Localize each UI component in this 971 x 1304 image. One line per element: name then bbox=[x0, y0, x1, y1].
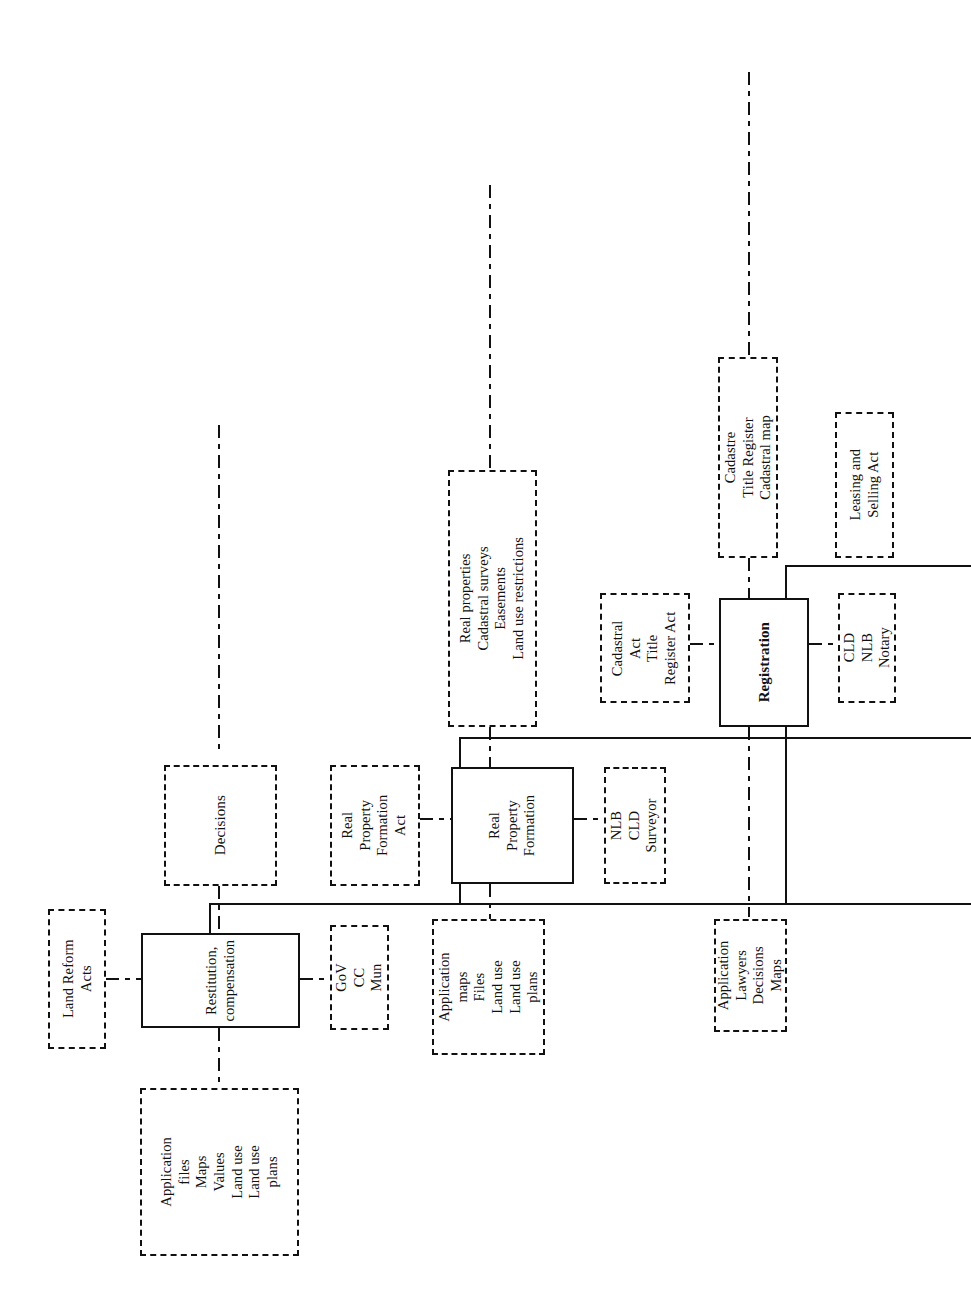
node-cadastre-title-register[interactable]: CadastreTitle RegisterCadastral map bbox=[718, 357, 778, 558]
node-real-properties[interactable]: Real propertiesCadastral surveysEasement… bbox=[448, 470, 537, 727]
connector-dashdot-decisions-restitution bbox=[218, 886, 220, 933]
connector-solid-lower-bus bbox=[209, 903, 971, 905]
connector-solid-upper-bus bbox=[459, 737, 971, 739]
node-label: CadastralActTitleRegister Act bbox=[610, 611, 681, 684]
node-label: RealPropertyFormation bbox=[486, 795, 539, 856]
node-label: ApplicationfilesMapsValuesLand useLand u… bbox=[158, 1137, 282, 1207]
connector-dashdot-rpfact-rpf bbox=[420, 818, 451, 820]
node-label: Leasing andSelling Act bbox=[847, 449, 882, 521]
node-label: Land ReformActs bbox=[59, 940, 94, 1019]
connector-dashdot-realproperties-up bbox=[489, 185, 491, 470]
node-label: ApplicationmapsFilesLand useLand useplan… bbox=[435, 952, 541, 1022]
connector-solid-registration-riser bbox=[785, 565, 787, 600]
node-decisions[interactable]: Decisions bbox=[164, 765, 277, 886]
connector-dashdot-restitution-applicationfiles bbox=[218, 1028, 220, 1088]
node-land-reform-acts[interactable]: Land ReformActs bbox=[48, 909, 106, 1049]
node-real-property-formation[interactable]: RealPropertyFormation bbox=[451, 767, 574, 884]
connector-dashdot-rpf-nlb bbox=[574, 818, 604, 820]
diagram-canvas: Land ReformActs Restitution,compensation… bbox=[0, 0, 971, 1304]
node-label: GoVCCMun bbox=[333, 963, 386, 992]
connector-dashdot-registration-cld bbox=[809, 643, 838, 645]
node-label: Restitution,compensation bbox=[203, 940, 238, 1022]
connector-solid-rpf-drop bbox=[459, 884, 461, 905]
connector-dashdot-restitution-gov bbox=[300, 978, 330, 980]
connector-dashdot-cadastre-registration bbox=[748, 558, 750, 598]
node-registration[interactable]: Registration bbox=[719, 598, 809, 727]
connector-solid-restitution-riser bbox=[209, 903, 211, 935]
connector-solid-registration-bus bbox=[785, 565, 971, 567]
node-label: RealPropertyFormationAct bbox=[340, 795, 411, 856]
connector-dashdot-realproperties-rpf bbox=[489, 727, 491, 767]
node-real-property-formation-act[interactable]: RealPropertyFormationAct bbox=[330, 765, 420, 886]
node-label: Decisions bbox=[211, 795, 229, 855]
node-label: Real propertiesCadastral surveysEasement… bbox=[457, 537, 528, 660]
node-label: ApplicationLawyersDecisionsMaps bbox=[715, 941, 786, 1011]
node-label: CLDNLBNotary bbox=[840, 628, 893, 669]
node-application-lawyers[interactable]: ApplicationLawyersDecisionsMaps bbox=[714, 919, 787, 1032]
connector-dashdot-landreform-restitution bbox=[106, 978, 141, 980]
node-application-files[interactable]: ApplicationfilesMapsValuesLand useLand u… bbox=[140, 1088, 299, 1256]
node-restitution-compensation[interactable]: Restitution,compensation bbox=[141, 933, 300, 1028]
node-leasing-selling-act[interactable]: Leasing andSelling Act bbox=[835, 412, 894, 558]
connector-dashdot-decisions-up bbox=[218, 425, 220, 755]
node-label: Registration bbox=[755, 622, 773, 702]
node-label: CadastreTitle RegisterCadastral map bbox=[721, 415, 774, 500]
node-cadastral-act[interactable]: CadastralActTitleRegister Act bbox=[600, 593, 690, 703]
connector-dashdot-rpf-applicationmaps bbox=[489, 884, 491, 919]
node-nlb-cld-surveyor[interactable]: NLBCLDSurveyor bbox=[604, 767, 666, 884]
connector-dashdot-cadastralact-registration bbox=[690, 643, 719, 645]
node-cld-nlb-notary[interactable]: CLDNLBNotary bbox=[838, 593, 896, 703]
node-label: NLBCLDSurveyor bbox=[608, 799, 661, 853]
connector-dashdot-cadastre-up bbox=[748, 72, 750, 357]
node-gov-cc-mun[interactable]: GoVCCMun bbox=[330, 925, 389, 1030]
node-application-maps[interactable]: ApplicationmapsFilesLand useLand useplan… bbox=[432, 919, 545, 1055]
connector-solid-rpf-riser bbox=[459, 737, 461, 769]
connector-solid-registration-drop bbox=[785, 727, 787, 905]
connector-dashdot-registration-applications bbox=[748, 727, 750, 917]
